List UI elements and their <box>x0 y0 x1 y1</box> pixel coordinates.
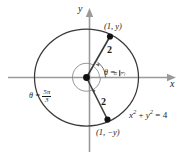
y-axis-label: y <box>78 4 82 14</box>
point-lower-label: (1, −y) <box>96 128 120 137</box>
equation-four: 4 <box>163 110 168 120</box>
fraction-pi-over-3: π 3 <box>113 71 128 77</box>
theta-symbol-lower: θ <box>29 91 33 100</box>
circle-equation-label: x2 + y2 = 4 <box>129 109 167 120</box>
theta-symbol-upper: θ <box>104 68 108 77</box>
angle-arc-pi-over-3-inner <box>94 67 100 78</box>
angle-arc-pi-over-3-arrowhead <box>96 63 100 67</box>
point-upper-marker <box>107 33 113 39</box>
fraction-denominator: 3 <box>120 71 127 77</box>
radius-lower-length-label: 2 <box>101 97 106 107</box>
origin-point <box>83 74 90 81</box>
equals-sign-lower: = <box>35 91 40 100</box>
y-axis-arrowhead <box>86 8 93 17</box>
point-lower-marker <box>104 116 110 122</box>
fraction-5pi-over-3: 5π 3 <box>42 89 51 104</box>
angle-label-pi-over-3: θ = π 3 <box>104 66 123 81</box>
x-axis-label: x <box>170 79 174 89</box>
radius-upper-length-label: 2 <box>107 45 112 55</box>
unit-circle-figure: y x (1, y) (1, −y) 2 2 θ = π 3 θ = 5π 3 … <box>0 0 193 161</box>
angle-label-5pi-over-3: θ = 5π 3 <box>29 89 51 104</box>
point-upper-label: (1, y) <box>104 22 122 31</box>
fraction-denominator: 3 <box>42 97 51 104</box>
